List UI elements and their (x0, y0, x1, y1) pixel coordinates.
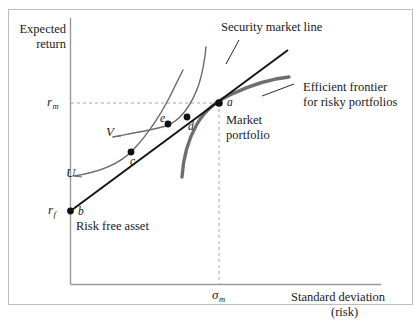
point-label-e: e (160, 112, 165, 125)
y-tick-label-rm: rm (47, 95, 58, 110)
x-tick-sigma-subscript: m (219, 294, 225, 304)
y-tick-label-rf: rf (48, 203, 55, 218)
annotation-security-market-line: Security market line (221, 20, 322, 34)
leader-security-market-line (226, 40, 239, 64)
point-label-b: b (78, 205, 84, 218)
data-point-e (165, 121, 172, 128)
point-label-a: a (227, 96, 233, 109)
data-point-b (67, 208, 74, 215)
annotation-market-portfolio-line1: Market (226, 113, 262, 127)
point-label-c: c (130, 155, 135, 168)
annotation-efficient-frontier-line1: Efficient frontier (303, 80, 387, 94)
y-tick-rm-subscript: m (53, 101, 59, 111)
data-point-a (215, 99, 223, 107)
y-tick-rf-subscript: f (54, 209, 56, 219)
y-tick-rf-base: r (48, 202, 53, 217)
y-tick-rm-base: r (47, 94, 52, 109)
annotation-risk-free-asset: Risk free asset (76, 219, 149, 233)
x-tick-label-sigma-m: σm (212, 288, 225, 303)
x-axis-label-line1: Standard deviation (291, 290, 385, 304)
leader-efficient-frontier (262, 84, 294, 96)
point-label-d: d (188, 120, 194, 133)
annotation-market-portfolio-line2: portfolio (226, 128, 270, 142)
figure-capm-diagram: Expected return Standard deviation (risk… (0, 0, 419, 331)
x-tick-sigma-base: σ (212, 287, 218, 302)
outer-frame (9, 10, 413, 305)
y-axis-label-line2: return (14, 37, 66, 51)
x-axis-label-line2: (risk) (331, 305, 358, 319)
curve-label-v: V (106, 125, 114, 140)
y-axis-label-line1: Expected (14, 22, 66, 36)
curve-label-u: U (66, 166, 75, 181)
annotation-efficient-frontier-line2: for risky portfolios (303, 95, 397, 109)
